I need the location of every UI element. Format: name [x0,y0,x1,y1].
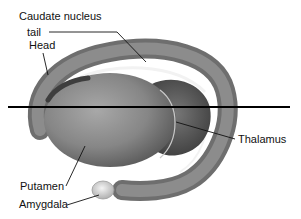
basal-ganglia-diagram: Caudate nucleus tail Head Thalamus Putam… [0,0,301,219]
label-head: Head [29,39,55,52]
label-thalamus: Thalamus [238,133,286,146]
head-leader-line [43,53,48,75]
label-putamen: Putamen [20,180,64,193]
putamen [44,73,176,167]
amygdala-leader-line [67,195,99,205]
label-tail: tail [27,26,41,39]
label-caudate-nucleus: Caudate nucleus [19,10,102,23]
label-amygdala: Amygdala [19,198,68,211]
